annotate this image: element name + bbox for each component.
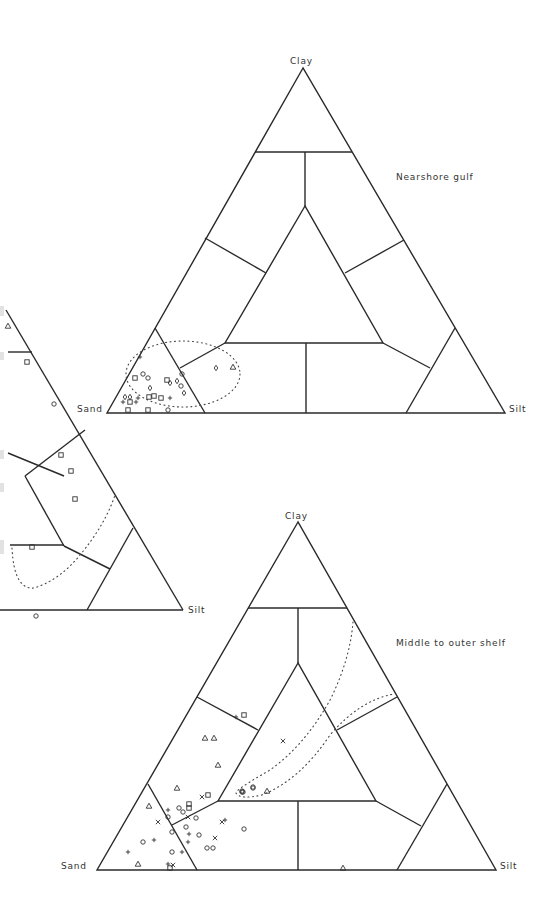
- cross-marker: [200, 795, 204, 799]
- ternary-nearshore-gulf: Clay Sand Silt Nearshore gulf: [77, 56, 526, 414]
- cross-marker: [156, 820, 160, 824]
- circle-marker: [184, 825, 188, 829]
- circle-marker: [179, 384, 183, 388]
- triangle-marker: [264, 788, 270, 793]
- plus-marker: [134, 400, 138, 404]
- circle-marker: [170, 830, 174, 834]
- circle-marker: [52, 402, 56, 406]
- triangle-marker: [146, 803, 152, 808]
- plus-marker: [121, 400, 125, 404]
- diamond-marker: [214, 365, 218, 370]
- circle-marker: [166, 408, 170, 412]
- square-marker: [69, 469, 73, 473]
- ternary-middle-outer-shelf: Clay Sand Silt Middle to outer shelf: [61, 511, 517, 871]
- boundary: [25, 430, 85, 476]
- plus-marker: [180, 850, 184, 854]
- plus-marker: [136, 396, 140, 400]
- circle-marker: [205, 846, 209, 850]
- square-marker: [242, 713, 246, 717]
- cross-marker: [281, 739, 285, 743]
- triangle-marker: [135, 861, 141, 866]
- circle-marker: [177, 806, 181, 810]
- boundary: [205, 238, 266, 273]
- square-marker: [147, 395, 151, 399]
- plus-marker: [166, 808, 170, 812]
- outer-triangle: [97, 522, 496, 870]
- triangle-marker: [5, 323, 11, 328]
- inner-triangle: [225, 206, 383, 343]
- circle-marker: [181, 810, 185, 814]
- diamond-marker: [148, 385, 152, 390]
- ternary-diagrams: Silt Clay Sand Silt Nearshore gulf: [0, 0, 559, 915]
- boundary: [172, 801, 218, 825]
- square-marker: [152, 394, 156, 398]
- boundary: [376, 801, 421, 826]
- scan-shadow: [0, 352, 4, 360]
- partial-ternary-left: Silt: [0, 310, 205, 615]
- circle-marker: [141, 840, 145, 844]
- clay-label: Clay: [290, 56, 313, 66]
- diagram-title: Middle to outer shelf: [396, 638, 506, 648]
- silt-label: Silt: [509, 404, 526, 414]
- circle-marker: [146, 376, 150, 380]
- circle-marker: [34, 614, 38, 618]
- silt-label: Silt: [188, 605, 205, 615]
- boundary-sand: [148, 784, 197, 870]
- sand-label: Sand: [77, 404, 103, 414]
- boundary-silt: [406, 328, 455, 413]
- triangle-marker: [215, 762, 221, 767]
- plus-marker: [186, 840, 190, 844]
- circle-marker: [141, 372, 145, 376]
- plus-marker: [168, 396, 172, 400]
- square-marker: [73, 497, 77, 501]
- square-marker: [133, 376, 137, 380]
- scan-shadow: [0, 540, 4, 554]
- right-edge: [6, 310, 183, 610]
- plus-marker: [223, 818, 227, 822]
- cross-marker: [171, 863, 175, 867]
- envelope-dotted: [126, 341, 240, 407]
- square-marker: [206, 793, 210, 797]
- plus-marker: [126, 850, 130, 854]
- triangle-marker: [202, 735, 208, 740]
- boundary: [383, 343, 430, 368]
- square-marker: [59, 453, 63, 457]
- boundary: [180, 343, 225, 368]
- circle-marker: [211, 846, 215, 850]
- circle-marker: [170, 850, 174, 854]
- triangle-marker: [211, 735, 217, 740]
- boundary: [25, 476, 64, 546]
- scan-shadow: [0, 483, 4, 492]
- square-marker: [146, 408, 150, 412]
- clay-label: Clay: [285, 511, 308, 521]
- boundary: [197, 697, 258, 730]
- envelope-dotted: [12, 495, 115, 588]
- cross-marker: [213, 836, 217, 840]
- boundary: [337, 697, 397, 730]
- silt-label: Silt: [500, 861, 517, 871]
- sand-label: Sand: [61, 861, 87, 871]
- circle-marker: [197, 833, 201, 837]
- square-marker: [165, 378, 169, 382]
- square-marker: [159, 396, 163, 400]
- diamond-marker: [168, 380, 172, 385]
- data-points-partial: [5, 323, 77, 618]
- boundary: [8, 453, 64, 476]
- circle-marker: [242, 827, 246, 831]
- plus-marker: [152, 838, 156, 842]
- diamond-marker: [175, 378, 179, 383]
- inner-triangle: [218, 663, 376, 801]
- diamond-marker: [128, 394, 132, 399]
- triangle-marker: [174, 785, 180, 790]
- diagram-title: Nearshore gulf: [396, 172, 474, 182]
- scan-shadow: [0, 306, 4, 316]
- square-marker: [126, 408, 130, 412]
- data-points: [126, 713, 346, 870]
- cross-marker: [220, 820, 224, 824]
- diamond-marker: [182, 390, 186, 395]
- circle-marker: [194, 816, 198, 820]
- data-points: [121, 355, 236, 412]
- square-marker: [25, 360, 29, 364]
- plus-marker: [187, 832, 191, 836]
- boundary: [345, 240, 404, 273]
